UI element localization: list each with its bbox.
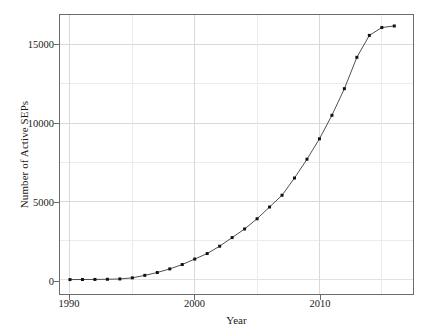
data-point [343,87,346,90]
data-point [256,217,259,220]
data-point [318,137,321,140]
data-series-seps [60,15,413,294]
data-point [118,277,121,280]
plot-area [59,14,414,295]
data-point [355,56,358,59]
data-point [168,267,171,270]
data-point [156,271,159,274]
x-tick-mark [194,295,195,300]
y-tick-label: 5000 [0,196,54,207]
x-tick-mark [320,295,321,300]
data-point [181,263,184,266]
data-point [281,194,284,197]
x-tick-mark [69,295,70,300]
data-point [380,26,383,29]
chart-figure: Number of Active SEPs 050001000015000 19… [0,0,425,336]
data-point [93,278,96,281]
data-point [193,258,196,261]
y-tick-label: 15000 [0,38,54,49]
data-point [131,276,134,279]
data-point [218,245,221,248]
data-point [330,114,333,117]
data-point [231,236,234,239]
y-tick-label: 10000 [0,117,54,128]
data-point [81,278,84,281]
y-tick-label: 0 [0,275,54,286]
data-point [106,278,109,281]
data-point [143,274,146,277]
data-point [243,227,246,230]
y-axis-title: Number of Active SEPs [18,14,34,295]
data-point [368,34,371,37]
data-point [305,158,308,161]
x-axis-title: Year [59,314,414,326]
data-point [268,206,271,209]
data-point [68,278,71,281]
data-point [393,24,396,27]
data-point [293,177,296,180]
data-point [206,252,209,255]
